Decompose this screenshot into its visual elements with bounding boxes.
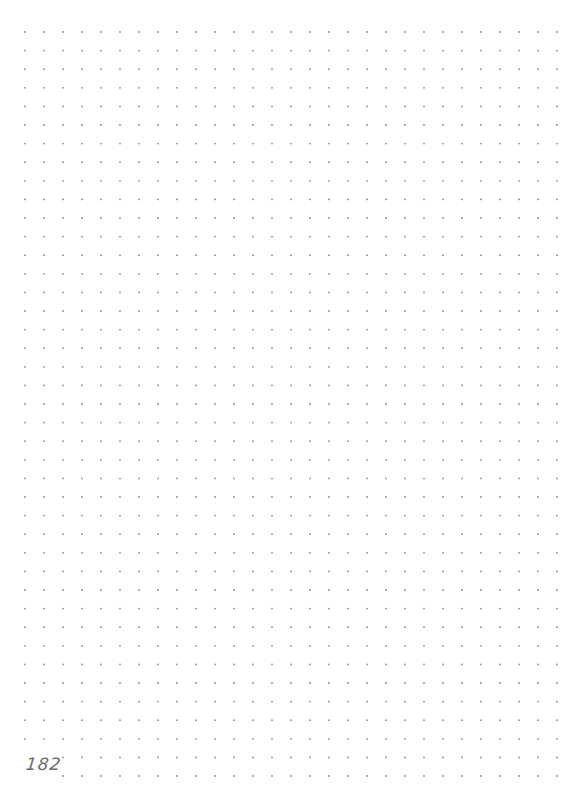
grid-dot bbox=[214, 757, 216, 759]
grid-dot bbox=[138, 87, 140, 89]
grid-dot bbox=[81, 478, 83, 480]
grid-dot bbox=[537, 310, 539, 312]
grid-dot bbox=[100, 161, 102, 163]
grid-dot bbox=[24, 608, 26, 610]
grid-dot bbox=[24, 217, 26, 219]
grid-dot bbox=[556, 552, 558, 554]
grid-dot bbox=[442, 571, 444, 573]
grid-dot bbox=[404, 143, 406, 145]
grid-dot bbox=[195, 496, 197, 498]
grid-dot bbox=[518, 124, 520, 126]
grid-dot bbox=[195, 106, 197, 108]
grid-dot bbox=[499, 143, 501, 145]
grid-dot bbox=[347, 719, 349, 721]
grid-dot bbox=[518, 236, 520, 238]
grid-dot bbox=[214, 533, 216, 535]
grid-dot bbox=[385, 645, 387, 647]
grid-dot bbox=[214, 366, 216, 368]
grid-dot bbox=[385, 757, 387, 759]
grid-dot bbox=[214, 236, 216, 238]
grid-dot bbox=[81, 589, 83, 591]
grid-dot bbox=[518, 161, 520, 163]
grid-dot bbox=[81, 236, 83, 238]
grid-dot bbox=[100, 775, 102, 777]
grid-dot bbox=[138, 515, 140, 517]
grid-dot bbox=[43, 273, 45, 275]
grid-dot bbox=[119, 106, 121, 108]
grid-dot bbox=[252, 533, 254, 535]
grid-dot bbox=[138, 347, 140, 349]
grid-dot bbox=[480, 236, 482, 238]
grid-dot bbox=[556, 347, 558, 349]
grid-dot bbox=[138, 626, 140, 628]
grid-dot bbox=[214, 180, 216, 182]
grid-dot bbox=[24, 478, 26, 480]
grid-dot bbox=[81, 515, 83, 517]
grid-dot bbox=[423, 273, 425, 275]
grid-dot bbox=[271, 87, 273, 89]
grid-dot bbox=[404, 552, 406, 554]
grid-dot bbox=[461, 664, 463, 666]
grid-dot bbox=[385, 106, 387, 108]
grid-dot bbox=[518, 440, 520, 442]
grid-dot bbox=[24, 106, 26, 108]
grid-dot bbox=[309, 310, 311, 312]
grid-dot bbox=[518, 143, 520, 145]
grid-dot bbox=[43, 682, 45, 684]
grid-dot bbox=[62, 329, 64, 331]
grid-dot bbox=[404, 533, 406, 535]
grid-dot bbox=[100, 403, 102, 405]
grid-dot bbox=[290, 571, 292, 573]
grid-dot bbox=[100, 515, 102, 517]
grid-dot bbox=[214, 719, 216, 721]
grid-dot bbox=[518, 626, 520, 628]
grid-dot bbox=[43, 254, 45, 256]
grid-dot bbox=[24, 645, 26, 647]
grid-dot bbox=[366, 347, 368, 349]
grid-dot bbox=[271, 199, 273, 201]
grid-dot bbox=[157, 775, 159, 777]
grid-dot bbox=[195, 608, 197, 610]
grid-dot bbox=[480, 143, 482, 145]
grid-dot bbox=[404, 385, 406, 387]
grid-dot bbox=[81, 254, 83, 256]
grid-dot bbox=[252, 180, 254, 182]
grid-dot bbox=[138, 496, 140, 498]
grid-dot bbox=[138, 143, 140, 145]
grid-dot bbox=[62, 682, 64, 684]
grid-dot bbox=[62, 50, 64, 52]
grid-dot bbox=[24, 422, 26, 424]
grid-dot bbox=[81, 50, 83, 52]
grid-dot bbox=[195, 366, 197, 368]
grid-dot bbox=[157, 50, 159, 52]
grid-dot bbox=[423, 347, 425, 349]
grid-dot bbox=[119, 645, 121, 647]
grid-dot bbox=[43, 459, 45, 461]
grid-dot bbox=[100, 199, 102, 201]
grid-dot bbox=[461, 571, 463, 573]
grid-dot bbox=[43, 515, 45, 517]
grid-dot bbox=[24, 292, 26, 294]
grid-dot bbox=[499, 589, 501, 591]
grid-dot bbox=[309, 701, 311, 703]
grid-dot bbox=[233, 273, 235, 275]
grid-dot bbox=[195, 552, 197, 554]
grid-dot bbox=[157, 478, 159, 480]
grid-dot bbox=[233, 366, 235, 368]
grid-dot bbox=[499, 775, 501, 777]
grid-dot bbox=[347, 440, 349, 442]
grid-dot bbox=[518, 50, 520, 52]
grid-dot bbox=[328, 106, 330, 108]
grid-dot bbox=[214, 682, 216, 684]
grid-dot bbox=[480, 106, 482, 108]
grid-dot bbox=[347, 161, 349, 163]
grid-dot bbox=[62, 701, 64, 703]
grid-dot bbox=[347, 329, 349, 331]
grid-dot bbox=[556, 50, 558, 52]
grid-dot bbox=[119, 515, 121, 517]
grid-dot bbox=[461, 496, 463, 498]
grid-dot bbox=[480, 440, 482, 442]
grid-dot bbox=[43, 440, 45, 442]
grid-dot bbox=[157, 180, 159, 182]
grid-dot bbox=[404, 106, 406, 108]
